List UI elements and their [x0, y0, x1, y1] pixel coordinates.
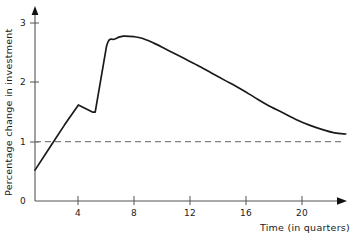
y-tick-label-0: 0: [12, 197, 26, 206]
x-tick-label-12: 12: [182, 209, 198, 218]
y-axis-title: Percentage change in investment: [2, 6, 16, 196]
x-tick-label-4: 4: [70, 209, 86, 218]
y-axis: [32, 6, 39, 201]
x-tick-label-20: 20: [294, 209, 310, 218]
investment-line-chart: 0 1 2 3 4 8 12 16 20 Time (in quarters) …: [0, 0, 358, 242]
x-tick-label-8: 8: [126, 209, 142, 218]
x-axis-title: Time (in quarters): [260, 222, 350, 233]
x-tick-label-16: 16: [238, 209, 254, 218]
chart-plot-area: [0, 0, 358, 242]
x-axis: [35, 197, 347, 205]
data-series-line: [35, 36, 346, 170]
